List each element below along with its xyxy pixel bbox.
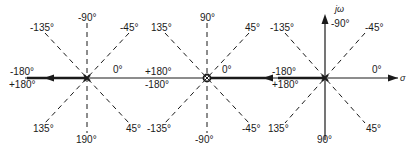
angle-label: -135°: [147, 124, 171, 134]
angle-label: 45°: [126, 124, 141, 134]
real-axis-arrow-icon: [388, 75, 398, 82]
angle-label: -180°: [10, 67, 34, 77]
angle-label: 90°: [200, 13, 215, 23]
angle-label: -90°: [195, 135, 213, 145]
angle-label: 135°: [268, 124, 289, 134]
angle-label: +180°: [145, 67, 172, 77]
arrow-head-icon: [44, 75, 54, 82]
angle-label: 135°: [151, 23, 172, 33]
angle-label: -90°: [331, 19, 349, 29]
zero-o-icon: [204, 75, 211, 82]
imag-axis-arrow-icon: [322, 14, 329, 24]
angle-label: 190°: [76, 135, 97, 145]
angle-label: -90°: [78, 13, 96, 23]
angle-label: 0°: [372, 65, 382, 75]
imag-axis-label: jω: [335, 5, 344, 14]
angle-label: -45°: [242, 124, 260, 134]
angle-label: 45°: [245, 23, 260, 33]
angle-label: +180°: [272, 80, 299, 90]
angle-label: -135°: [30, 23, 54, 33]
angle-label: 0°: [222, 65, 232, 75]
angle-label: 90°: [317, 135, 332, 145]
angle-label: +180°: [9, 80, 36, 90]
angle-label: 45°: [366, 124, 381, 134]
angle-label: -45°: [120, 23, 138, 33]
real-axis-label: σ: [400, 74, 405, 83]
angle-label: 135°: [33, 124, 54, 134]
angle-label: -180°: [145, 80, 169, 90]
angle-label: -135°: [270, 23, 294, 33]
angle-label: 0°: [113, 65, 123, 75]
angle-label: -180°: [272, 67, 296, 77]
angle-label: -45°: [365, 23, 383, 33]
